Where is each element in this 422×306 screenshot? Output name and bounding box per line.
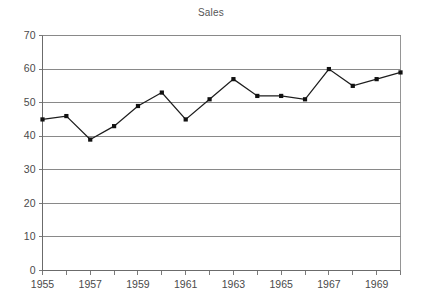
data-point-1966-51 [303, 97, 307, 101]
y-tick-label-20: 20 [24, 197, 36, 209]
data-point-1965-52 [279, 94, 283, 98]
x-tick-marks [43, 271, 401, 275]
y-tick-label-30: 30 [24, 163, 36, 175]
x-tick-label-1955: 1955 [31, 278, 55, 290]
y-tick-label-50: 50 [24, 96, 36, 108]
data-point-1962-51 [207, 97, 211, 101]
data-point-1961-45 [184, 117, 188, 121]
x-tick-label-1965: 1965 [269, 278, 293, 290]
y-axis-tick-labels: 706050403020100 [24, 29, 36, 276]
y-tick-label-0: 0 [30, 264, 36, 276]
sales-series-markers [40, 67, 402, 142]
x-tick-label-1959: 1959 [126, 278, 150, 290]
x-tick-label-1961: 1961 [174, 278, 198, 290]
x-tick-label-1969: 1969 [365, 278, 389, 290]
data-point-1955-45 [40, 117, 44, 121]
x-axis-tick-labels: 19551957195919611963196519671969 [31, 278, 389, 290]
data-point-1970-59 [398, 70, 402, 74]
sales-series-line [43, 69, 401, 140]
sales-line-chart: Sales 706050403020100 195519571959196119… [0, 0, 422, 306]
data-point-1959-49 [136, 104, 140, 108]
data-point-1968-55 [351, 84, 355, 88]
data-point-1956-46 [64, 114, 68, 118]
data-point-1960-53 [160, 90, 164, 94]
y-tick-label-70: 70 [24, 29, 36, 41]
x-tick-label-1967: 1967 [317, 278, 341, 290]
data-point-1967-60 [327, 67, 331, 71]
data-point-1963-57 [231, 77, 235, 81]
y-tick-marks [39, 36, 43, 271]
data-point-1969-57 [375, 77, 379, 81]
y-tick-label-10: 10 [24, 230, 36, 242]
data-point-1964-52 [255, 94, 259, 98]
y-tick-label-40: 40 [24, 129, 36, 141]
x-tick-label-1957: 1957 [79, 278, 103, 290]
gridlines [43, 36, 401, 271]
chart-plot-area: 706050403020100 195519571959196119631965… [0, 0, 422, 306]
x-tick-label-1963: 1963 [222, 278, 246, 290]
y-tick-label-60: 60 [24, 62, 36, 74]
data-point-1957-39 [88, 137, 92, 141]
data-point-1958-43 [112, 124, 116, 128]
